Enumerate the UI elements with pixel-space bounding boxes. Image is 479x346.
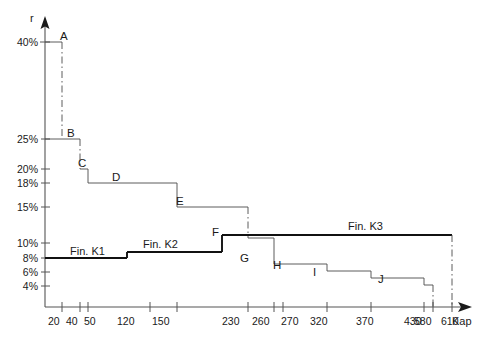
step-label-I: I (313, 266, 316, 278)
supply-step-labels: Fin. K1 Fin. K2 Fin. K3 (70, 220, 383, 257)
step-label-F: F (212, 226, 219, 238)
y-label-40: 40% (17, 36, 38, 48)
capital-demand-supply-chart: r Kap 40% 25% 20% 18% 15% 10% 8% 6% 4% (0, 0, 479, 346)
step-label-J: J (378, 273, 384, 285)
x-label-40: 40 (66, 315, 78, 327)
demand-staircase (45, 42, 433, 307)
y-label-20: 20% (17, 163, 38, 175)
x-label-150: 150 (152, 315, 170, 327)
chart-svg: r Kap 40% 25% 20% 18% 15% 10% 8% 6% 4% (0, 0, 479, 346)
y-label-6: 6% (23, 266, 38, 278)
x-label-20: 20 (48, 315, 60, 327)
y-axis-title: r (30, 12, 34, 24)
x-label-580: 580 (414, 315, 432, 327)
y-label-15: 15% (17, 201, 38, 213)
step-label-A: A (60, 30, 68, 42)
x-label-320: 320 (310, 315, 328, 327)
x-axis-tick-labels: 20 40 50 120 150 230 260 270 320 370 430… (48, 315, 459, 327)
step-label-E: E (176, 195, 184, 207)
x-label-370: 370 (356, 315, 374, 327)
y-label-25: 25% (17, 133, 38, 145)
y-label-4: 4% (23, 280, 38, 292)
y-label-8: 8% (23, 252, 38, 264)
supply-label-K3: Fin. K3 (348, 220, 383, 232)
x-label-610: 610 (441, 315, 459, 327)
x-label-230: 230 (222, 315, 240, 327)
x-label-120: 120 (117, 315, 135, 327)
step-label-C: C (78, 157, 86, 169)
supply-label-K1: Fin. K1 (70, 245, 105, 257)
step-label-B: B (67, 127, 75, 139)
x-label-260: 260 (252, 315, 270, 327)
supply-label-K2: Fin. K2 (143, 238, 178, 250)
x-label-270: 270 (281, 315, 299, 327)
axes (41, 16, 473, 312)
x-label-50: 50 (84, 315, 96, 327)
step-label-D: D (112, 171, 120, 183)
y-label-10: 10% (17, 237, 38, 249)
step-label-G: G (240, 252, 249, 264)
step-label-H: H (273, 259, 281, 271)
y-axis-tick-labels: 40% 25% 20% 18% 15% 10% 8% 6% 4% (17, 36, 38, 292)
y-label-18: 18% (17, 177, 38, 189)
